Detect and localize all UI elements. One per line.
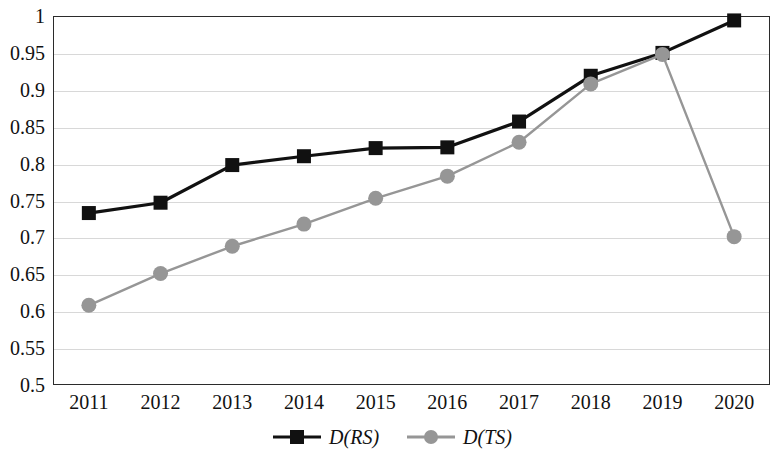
legend-label-d-rs: D(RS) (329, 427, 379, 447)
legend-label-d-ts: D(TS) (463, 427, 512, 447)
x-axis-tick-label: 2020 (714, 392, 754, 412)
x-axis-tick-label: 2018 (571, 392, 611, 412)
x-axis: 2011201220132014201520162017201820192020 (53, 392, 770, 420)
data-point-marker (296, 217, 311, 232)
data-point-marker (81, 298, 96, 313)
data-point-marker (440, 169, 455, 184)
data-point-marker (225, 239, 240, 254)
x-axis-tick-label: 2015 (356, 392, 396, 412)
data-point-marker (225, 158, 239, 172)
data-point-marker (369, 141, 383, 155)
chart-legend: D(RS) D(TS) (0, 427, 783, 447)
x-axis-tick-label: 2012 (141, 392, 181, 412)
data-point-marker (655, 47, 670, 62)
series-line (89, 20, 734, 213)
circle-marker-icon (405, 429, 457, 445)
data-point-marker (153, 266, 168, 281)
x-axis-tick-label: 2014 (284, 392, 324, 412)
x-axis-tick-label: 2016 (427, 392, 467, 412)
x-axis-tick-label: 2013 (212, 392, 252, 412)
data-point-marker (727, 229, 742, 244)
series-line (89, 54, 734, 305)
x-axis-tick-label: 2019 (642, 392, 682, 412)
data-point-marker (583, 76, 598, 91)
x-axis-tick-label: 2017 (499, 392, 539, 412)
square-marker-icon (271, 429, 323, 445)
data-point-marker (154, 196, 168, 210)
series-dts (81, 47, 741, 313)
data-point-marker (512, 115, 526, 129)
legend-item-d-ts[interactable]: D(TS) (405, 427, 512, 447)
line-chart: 10.950.90.850.80.750.70.650.60.550.5 201… (0, 0, 783, 460)
data-point-marker (368, 191, 383, 206)
series-drs (82, 13, 741, 220)
data-point-marker (512, 135, 527, 150)
data-point-marker (440, 140, 454, 154)
data-point-marker (727, 13, 741, 27)
data-point-marker (82, 206, 96, 220)
data-point-marker (297, 149, 311, 163)
legend-item-d-rs[interactable]: D(RS) (271, 427, 379, 447)
x-axis-tick-label: 2011 (69, 392, 108, 412)
